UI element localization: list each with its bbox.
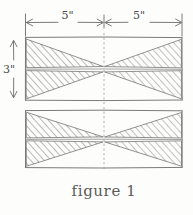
dimension-label-left: 5" xyxy=(61,9,73,22)
dimension-label-height: 3" xyxy=(3,63,15,76)
lower-left-bottom-triangle xyxy=(26,141,103,167)
left-dimension-group: 3" xyxy=(3,40,17,98)
lower-right-bottom-triangle xyxy=(105,141,182,166)
lower-left-top-triangle xyxy=(26,112,103,138)
upper-rectangle-group xyxy=(25,33,182,104)
lower-rectangle-group xyxy=(26,107,183,171)
upper-rect-bottom-edge xyxy=(25,100,182,101)
lower-right-top-triangle xyxy=(105,113,182,139)
upper-right-top-triangle xyxy=(105,39,182,68)
figure-caption: figure 1 xyxy=(72,182,137,200)
top-dimension-group: 5" 5" xyxy=(26,9,183,36)
upper-left-top-triangle xyxy=(26,39,103,68)
hand-drawn-figure: 5" 5" 3" xyxy=(0,0,193,215)
figure-canvas: 5" 5" 3" xyxy=(0,0,193,215)
upper-right-bottom-triangle xyxy=(105,71,182,99)
lower-rect-top-edge xyxy=(26,110,183,111)
dimension-label-right: 5" xyxy=(133,9,145,22)
upper-left-bottom-triangle xyxy=(26,71,103,99)
upper-rect-top-edge xyxy=(26,37,183,38)
